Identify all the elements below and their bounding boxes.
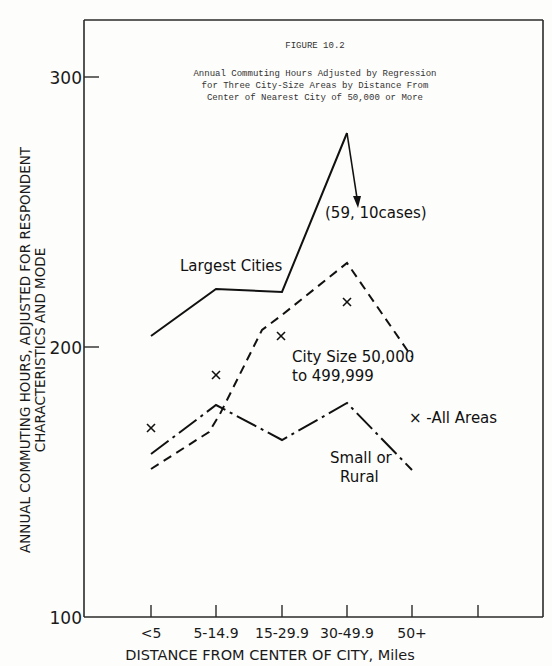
label-small-rural-line-2: Rural (340, 468, 379, 486)
label-peak-note: (59, 10cases) (325, 204, 427, 222)
y-tick-200: 200 (50, 338, 82, 358)
x-tick-15-29-9: 15-29.9 (255, 625, 309, 641)
y-axis-label: ANNUAL COMMUTING HOURS, ADJUSTED FOR RES… (17, 146, 48, 553)
figure-label: FIGURE 10.2 (285, 41, 344, 51)
x-tick-50-plus: 50+ (397, 625, 427, 641)
figure-title-line-2: for Three City-Size Areas by Distance Fr… (202, 81, 429, 91)
series-mid-size (151, 263, 412, 469)
x-marker (147, 424, 155, 432)
figure-page: FIGURE 10.2 Annual Commuting Hours Adjus… (0, 0, 552, 666)
x-axis-label: DISTANCE FROM CENTER OF CITY, Miles (125, 647, 415, 663)
x-marker (212, 371, 220, 379)
peak-arrow (347, 133, 361, 208)
label-mid-size-line-2: to 499,999 (292, 367, 374, 385)
legend-all-areas: × -All Areas (409, 409, 497, 427)
x-ticks (151, 605, 478, 617)
x-marker (343, 298, 351, 306)
y-ticks (84, 77, 99, 347)
y-tick-100: 100 (50, 608, 82, 628)
x-tick-30-49-9: 30-49.9 (320, 625, 374, 641)
y-axis-label-line-2: CHARACTERISTICS AND MODE (32, 248, 48, 453)
y-tick-300: 300 (50, 68, 82, 88)
figure-title-line-1: Annual Commuting Hours Adjusted by Regre… (193, 69, 436, 79)
y-axis-label-line-1: ANNUAL COMMUTING HOURS, ADJUSTED FOR RES… (17, 146, 33, 553)
series-largest-cities (151, 133, 347, 336)
chart-canvas: FIGURE 10.2 Annual Commuting Hours Adjus… (0, 0, 552, 666)
x-marker (277, 332, 285, 340)
plot-frame (84, 20, 543, 617)
x-tick-lt5: <5 (141, 625, 162, 641)
figure-title-line-3: Center of Nearest City of 50,000 or More (207, 93, 423, 103)
x-tick-5-14-9: 5-14.9 (193, 625, 238, 641)
label-mid-size-line-1: City Size 50,000 (292, 348, 414, 366)
label-largest-cities: Largest Cities (180, 257, 283, 275)
label-small-rural-line-1: Small or (330, 449, 393, 467)
